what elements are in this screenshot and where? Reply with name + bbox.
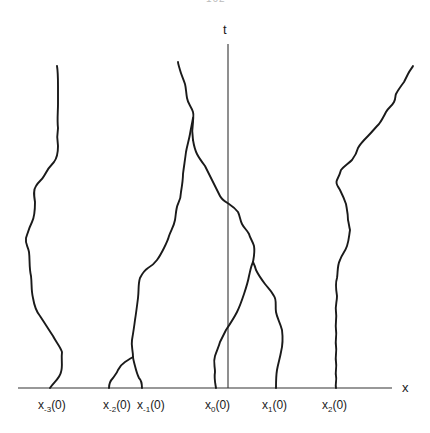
label-suffix: (0) xyxy=(150,398,165,412)
label-suffix: (0) xyxy=(332,398,347,412)
x-axis-label: x xyxy=(402,380,409,395)
label-suffix: (0) xyxy=(215,398,230,412)
path-merged-minus xyxy=(132,118,193,357)
path-merged-0-1 xyxy=(193,140,254,262)
path-x-minus-3 xyxy=(26,66,62,388)
label-x-minus-1: x-1(0) xyxy=(137,398,165,417)
path-x-minus-2 xyxy=(109,357,133,388)
label-x-minus-3: x-3(0) xyxy=(38,398,66,417)
label-x-minus-2: x-2(0) xyxy=(103,398,131,417)
label-x-1: x1(0) xyxy=(262,398,287,417)
label-suffix: (0) xyxy=(51,398,66,412)
path-x-minus-1 xyxy=(133,357,142,388)
label-x-0: x0(0) xyxy=(205,398,230,417)
path-x-1 xyxy=(253,262,283,388)
path-x-0 xyxy=(214,262,253,388)
label-suffix: (0) xyxy=(116,398,131,412)
label-suffix: (0) xyxy=(272,398,287,412)
path-x-2 xyxy=(336,66,413,388)
t-axis-label: t xyxy=(223,22,227,37)
label-x-2: x2(0) xyxy=(322,398,347,417)
coalescing-paths-diagram xyxy=(0,0,430,433)
